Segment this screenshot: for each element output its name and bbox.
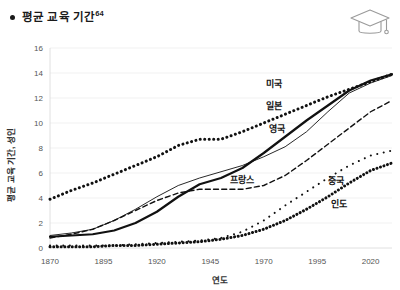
series-label-5: 인도 [331,199,348,209]
title-bullet-icon [10,15,15,20]
y-tick-8: 8 [39,144,44,153]
series-line-1 [50,74,392,237]
x-tick-1970: 1970 [255,257,273,266]
page-title: 평균 교육 기간64 [22,8,104,24]
y-tick-10: 10 [34,119,43,128]
graduation-cap-icon [348,6,392,40]
y-tick-6: 6 [39,169,44,178]
x-tick-1995: 1995 [308,257,326,266]
series-line-3 [50,101,392,239]
x-tick-1870: 1870 [41,257,59,266]
y-tick-2: 2 [39,219,44,228]
y-tick-14: 14 [34,69,43,78]
y-tick-4: 4 [39,194,44,203]
y-tick-16: 16 [34,44,43,53]
page-title-footnote: 64 [95,9,104,18]
chart-plot-area: 0246810121416 18701895192019451970199520… [0,40,400,290]
y-axis-tick-labels: 0246810121416 [34,44,43,253]
page-title-text: 평균 교육 기간 [22,11,95,23]
x-tick-1945: 1945 [201,257,219,266]
series-label-1: 일본 [266,100,282,111]
x-axis-title: 연도 [212,275,228,285]
data-series-group [50,74,392,247]
series-label-0: 미국 [266,78,283,89]
series-label-2: 영국 [269,123,286,134]
gridlines [50,48,392,248]
series-inline-labels: 미국일본영국프랑스중국인도 [230,78,347,209]
y-tick-0: 0 [39,244,44,253]
series-label-4: 중국 [328,176,345,186]
x-tick-1895: 1895 [95,257,113,266]
x-tick-2020: 2020 [362,257,380,266]
series-line-2 [50,76,392,236]
chart-header: 평균 교육 기간64 [0,0,400,40]
y-axis-title: 평균 교육 기간, 성인 [6,128,16,201]
x-tick-1920: 1920 [148,257,166,266]
y-tick-12: 12 [34,94,43,103]
x-axis-tick-labels: 1870189519201945197019952020 [41,257,380,266]
series-label-3: 프랑스 [230,174,255,185]
